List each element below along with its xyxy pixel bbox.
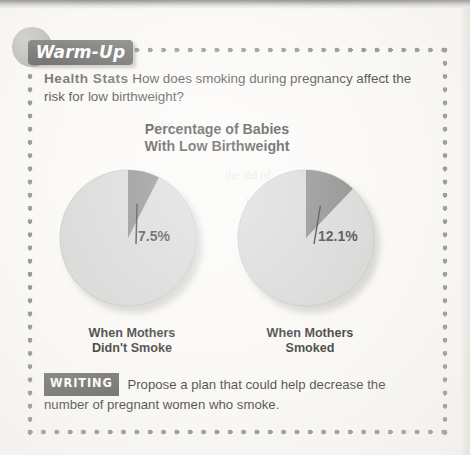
pie-chart-nonsmokers: 7.5% When Mothers Didn't Smoke: [56, 166, 208, 318]
writing-badge: WRITING: [44, 373, 119, 396]
writing-block: WRITING Propose a plan that could help d…: [44, 373, 416, 413]
chart-title-line-2: With Low Birthweight: [52, 138, 382, 155]
page-edge-shadow: [460, 8, 470, 455]
frame-dots-bottom: [27, 429, 448, 435]
frame-dots-left: [27, 47, 33, 435]
pie-caption-line-1: When Mothers: [234, 326, 386, 341]
pie-value-label-smokers: 12.1%: [318, 228, 358, 244]
chart-title-line-1: Percentage of Babies: [52, 121, 382, 138]
pie-caption-smokers: When Mothers Smoked: [234, 326, 386, 356]
pie-chart-smokers: 12.1% When Mothers Smoked: [234, 166, 386, 318]
question-block: Health Stats How does smoking during pre…: [44, 70, 412, 105]
warmup-plate: Warm-Up: [28, 40, 133, 65]
pie-svg-nonsmokers: [58, 168, 206, 316]
warmup-label: Warm-Up: [28, 40, 133, 65]
warmup-content: Health Stats How does smoking during pre…: [44, 70, 426, 318]
pie-caption-line-2: Smoked: [234, 341, 386, 356]
health-stats-label: Health Stats: [44, 71, 129, 86]
pie-caption-line-1: When Mothers: [56, 326, 208, 341]
pie-svg-smokers: [236, 168, 384, 316]
pie-caption-nonsmokers: When Mothers Didn't Smoke: [56, 326, 208, 356]
frame-dots-right: [442, 47, 448, 435]
chart-title: Percentage of Babies With Low Birthweigh…: [52, 121, 382, 155]
warmup-banner: Warm-Up: [12, 27, 152, 71]
pie-chart-group: 7.5% When Mothers Didn't Smoke 12.1% Whe…: [44, 166, 426, 318]
pie-caption-line-2: Didn't Smoke: [56, 341, 208, 356]
scan-shadow-top: [0, 0, 470, 9]
pie-value-label-nonsmokers: 7.5%: [138, 228, 170, 244]
